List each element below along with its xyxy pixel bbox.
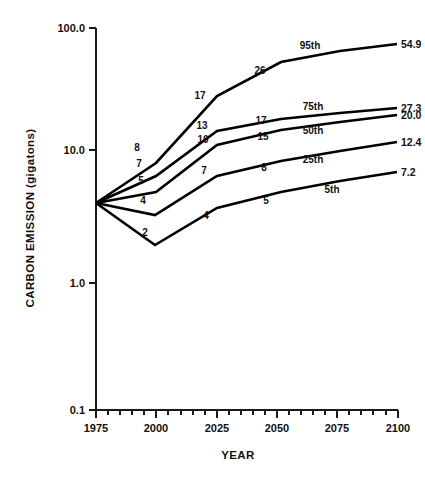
chart-figure: 100.0 10.0 1.0 0.1 [0, 0, 425, 478]
x-tick-label-2100: 2100 [386, 422, 410, 434]
segment-label-50th-2: 10 [197, 134, 209, 145]
y-tick-label-0-1: 0.1 [70, 404, 85, 416]
segment-label-5th-3: 5 [263, 195, 269, 206]
x-tick-label-2050: 2050 [265, 422, 289, 434]
x-tick-label-2075: 2075 [325, 422, 349, 434]
segment-label-50th-3: 15 [257, 131, 269, 142]
y-tick-label-1: 1.0 [70, 277, 85, 289]
percentile-label-5th: 5th [325, 184, 340, 195]
segment-label-25th-2: 7 [201, 165, 207, 176]
segment-label-95th-1: 8 [134, 142, 140, 153]
chart-background [0, 0, 425, 478]
end-label-5th: 7.2 [401, 166, 416, 178]
y-tick-label-100: 100.0 [57, 22, 85, 34]
segment-label-25th-1: 4 [140, 195, 146, 206]
x-axis-title: YEAR [221, 449, 255, 461]
x-tick-label-2000: 2000 [144, 422, 168, 434]
segment-label-5th-2: 4 [203, 210, 209, 221]
segment-label-50th-1: 5 [138, 175, 144, 186]
percentile-label-95th: 95th [300, 40, 321, 51]
percentile-label-50th: 50th [303, 125, 324, 136]
segment-label-75th-1: 7 [136, 158, 142, 169]
segment-label-5th-1: 2 [142, 227, 148, 238]
chart-svg: 100.0 10.0 1.0 0.1 [0, 0, 425, 478]
x-tick-label-1975: 1975 [84, 422, 108, 434]
segment-label-95th-2: 17 [194, 90, 206, 101]
percentile-label-75th: 75th [303, 101, 324, 112]
segment-label-25th-3: 8 [261, 162, 267, 173]
y-axis-title: CARBON EMISSION (gigatons) [24, 128, 36, 307]
y-tick-label-10: 10.0 [64, 144, 85, 156]
end-label-25th: 12.4 [401, 136, 422, 148]
end-label-50th: 20.0 [401, 109, 422, 121]
percentile-label-25th: 25th [303, 154, 324, 165]
segment-label-75th-3: 17 [255, 115, 267, 126]
end-label-95th: 54.9 [401, 38, 422, 50]
segment-label-95th-3: 26 [254, 65, 266, 76]
x-tick-label-2025: 2025 [205, 422, 229, 434]
segment-label-75th-2: 13 [196, 120, 208, 131]
